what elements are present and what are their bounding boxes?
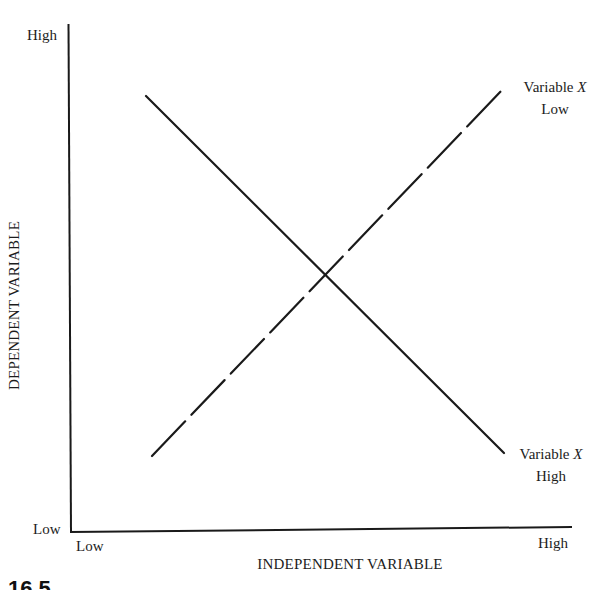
label-variable-x-high-line1: Variable X (506, 443, 596, 465)
label-variable-x-low-line1: Variable X (510, 76, 600, 98)
label-variable: X (577, 79, 586, 95)
label-variable-x-high: Variable X High (506, 443, 596, 487)
x-axis-low-label: Low (76, 538, 104, 555)
y-axis-low-label: Low (33, 521, 61, 538)
y-axis-title: DEPENDENT VARIABLE (7, 220, 24, 389)
x-axis (70, 527, 572, 532)
label-variable-x-high-line2: High (506, 465, 596, 487)
label-prefix: Variable (520, 446, 574, 462)
label-variable-x-low: Variable X Low (510, 76, 600, 120)
y-axis (69, 24, 72, 532)
x-axis-high-label: High (538, 535, 568, 552)
label-prefix: Variable (524, 79, 578, 95)
figure-caption-fragment: 16.5 (8, 578, 51, 590)
y-axis-title-wrap: DEPENDENT VARIABLE (4, 120, 26, 490)
label-variable-x-low-line2: Low (510, 98, 600, 120)
label-variable: X (573, 446, 582, 462)
x-axis-title: INDEPENDENT VARIABLE (200, 556, 500, 573)
y-axis-high-label: High (27, 27, 57, 44)
